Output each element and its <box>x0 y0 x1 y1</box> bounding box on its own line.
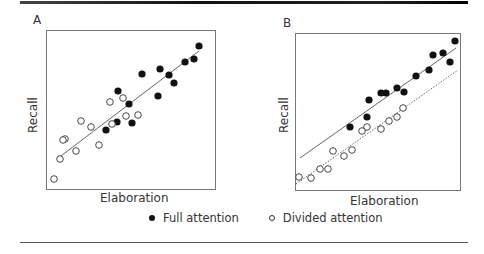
full-attention-point <box>156 65 163 72</box>
full-attention-point <box>181 58 188 65</box>
full-attention-point <box>102 126 109 133</box>
divided-attention-point <box>349 147 356 154</box>
divided-attention-point <box>317 166 324 173</box>
full-attention-point <box>439 49 446 56</box>
full-attention-point <box>190 55 197 62</box>
filled-circle-icon <box>149 215 155 221</box>
divided-attention-point <box>308 175 315 182</box>
legend-divided-attention: Divided attention <box>283 211 383 225</box>
divided-attention-point <box>57 156 64 163</box>
full-attention-point <box>425 66 432 73</box>
divided-attention-point <box>73 148 80 155</box>
divided-attention-point <box>60 137 67 144</box>
divided-attention-point <box>120 95 127 102</box>
divided-attention-point <box>51 176 58 183</box>
divided-attention-point <box>135 112 142 119</box>
divided-attention-point <box>394 114 401 121</box>
divided-attention-point <box>341 153 348 160</box>
divided-attention-point <box>88 124 95 131</box>
divided-attention-point <box>123 113 130 120</box>
full-attention-point <box>393 84 400 91</box>
legend: Full attention Divided attention <box>149 211 383 225</box>
divided-attention-point <box>400 105 407 112</box>
legend-full-attention: Full attention <box>163 211 239 225</box>
full-attention-point <box>365 96 372 103</box>
divided-attention-point <box>378 126 385 133</box>
full-attention-point <box>400 88 407 95</box>
panel-b-data <box>296 37 459 184</box>
full-attention-point <box>154 92 161 99</box>
full-attention-point <box>114 87 121 94</box>
divided-attention-point <box>359 128 366 135</box>
divided-attention-point <box>330 148 337 155</box>
regression-line-solid <box>300 48 456 158</box>
divided-attention-point <box>107 99 114 106</box>
panel-a-data <box>51 42 203 182</box>
divided-attention-point <box>296 174 303 181</box>
divided-attention-point <box>386 118 393 125</box>
full-attention-point <box>128 119 135 126</box>
full-attention-point <box>429 51 436 58</box>
open-circle-icon <box>269 215 275 221</box>
divided-attention-point <box>78 118 85 125</box>
full-attention-point <box>446 58 453 65</box>
divided-attention-point <box>325 166 332 173</box>
bottom-rule <box>20 242 468 243</box>
full-attention-point <box>412 72 419 79</box>
full-attention-point <box>138 70 145 77</box>
full-attention-point <box>451 37 458 44</box>
full-attention-point <box>125 100 132 107</box>
divided-attention-point <box>109 121 116 128</box>
full-attention-point <box>377 89 384 96</box>
full-attention-point <box>195 42 202 49</box>
full-attention-point <box>165 71 172 78</box>
full-attention-point <box>346 123 353 130</box>
full-attention-point <box>170 79 177 86</box>
divided-attention-point <box>96 142 103 149</box>
full-attention-point <box>363 113 370 120</box>
